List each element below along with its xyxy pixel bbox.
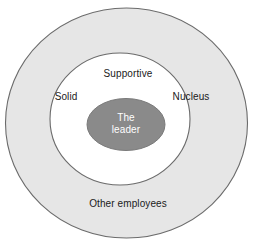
label-nucleus: Nucleus bbox=[156, 91, 226, 103]
label-the-leader-line1: The bbox=[96, 112, 156, 124]
label-solid: Solid bbox=[36, 91, 96, 103]
label-other-employees: Other employees bbox=[0, 198, 256, 210]
diagram-canvas: Supportive Solid Nucleus The leader Othe… bbox=[0, 0, 256, 251]
label-the-leader-line2: leader bbox=[96, 124, 156, 136]
label-supportive: Supportive bbox=[0, 68, 256, 80]
label-the-leader: The leader bbox=[96, 112, 156, 136]
